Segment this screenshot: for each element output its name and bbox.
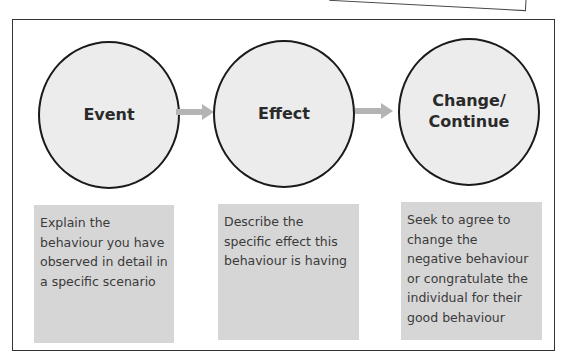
change-continue-description-box: Seek to agree to change the negative beh… [401,202,542,340]
event-title: Event [83,105,134,126]
event-description-box: Explain the behaviour you have observed … [34,205,174,343]
effect-description-box: Describe the specific effect this behavi… [218,204,359,340]
effect-circle: Effect [213,40,355,188]
effect-title: Effect [258,104,310,125]
effect-description: Describe the specific effect this behavi… [224,214,347,268]
arrow-right-icon [176,104,214,120]
event-circle: Event [38,41,180,189]
change-continue-description: Seek to agree to change the negative beh… [407,212,528,325]
change-title-line-1: Change/ [429,91,510,112]
event-description: Explain the behaviour you have observed … [40,215,168,289]
change-continue-circle: Change/ Continue [398,38,540,186]
change-title-line-2: Continue [429,112,510,133]
arrow-right-icon [355,103,393,119]
previous-frame-fragment [329,0,528,11]
